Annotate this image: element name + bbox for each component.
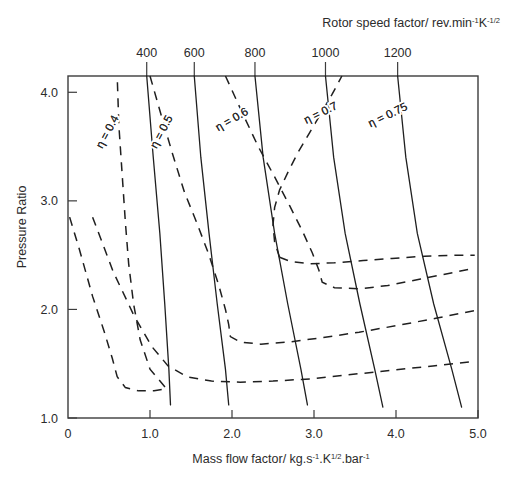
x-tick-label-2.0: 2.0 (223, 427, 240, 441)
y-tick-label-1.0: 1.0 (41, 412, 58, 426)
x-axis-ticks: 01.02.03.04.05.0 (65, 410, 487, 441)
speed-tick-label-1200: 1200 (384, 46, 412, 60)
speed-line-800 (255, 76, 307, 405)
speed-line-group (147, 76, 462, 407)
speed-line-1200 (398, 76, 462, 407)
top-axis-ticks: 40060080010001200 (136, 46, 411, 76)
contour-eta-0.75-lower (280, 255, 475, 264)
contour-label-eta-0.6: η = 0.6 (213, 105, 250, 133)
speed-tick-label-1000: 1000 (312, 46, 340, 60)
y-axis-ticks: 1.02.03.04.0 (41, 86, 77, 426)
x-axis-title: Mass flow factor/ kg.s-1.K1/2.bar-1 (192, 452, 369, 467)
top-axis-title: Rotor speed factor/ rev.min-1K-1/2 (322, 16, 500, 31)
contour-label-eta-0.7: η = 0.7 (302, 99, 339, 125)
compressor-performance-chart: 1.02.03.04.0 01.02.03.04.05.0 4006008001… (0, 0, 508, 484)
efficiency-contour-group (70, 76, 475, 391)
contour-label-eta-0.4: η = 0.4 (93, 113, 121, 151)
plot-border (68, 76, 478, 418)
x-tick-label-3.0: 3.0 (305, 427, 322, 441)
plot-frame (68, 76, 478, 418)
speed-tick-label-400: 400 (136, 46, 157, 60)
axis-title-group: Mass flow factor/ kg.s-1.K1/2.bar-1Rotor… (15, 16, 500, 467)
x-tick-label-1.0: 1.0 (141, 427, 158, 441)
x-tick-label-0: 0 (65, 427, 72, 441)
chart-canvas: 1.02.03.04.0 01.02.03.04.05.0 4006008001… (0, 0, 508, 484)
efficiency-label-group: η = 0.4η = 0.4η = 0.5η = 0.5η = 0.6η = 0… (93, 99, 409, 150)
y-axis-title: Pressure Ratio (15, 186, 29, 269)
x-tick-label-5.0: 5.0 (469, 427, 486, 441)
y-tick-label-3.0: 3.0 (41, 194, 58, 208)
speed-tick-label-600: 600 (184, 46, 205, 60)
speed-tick-label-800: 800 (245, 46, 266, 60)
y-tick-label-2.0: 2.0 (41, 303, 58, 317)
contour-eta-0.5 (93, 217, 474, 382)
x-tick-label-4.0: 4.0 (387, 427, 404, 441)
y-tick-label-4.0: 4.0 (41, 86, 58, 100)
